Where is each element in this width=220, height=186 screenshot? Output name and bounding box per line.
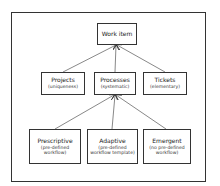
node-label: Processes: [100, 77, 130, 84]
edge-processes-workitem: [115, 45, 116, 72]
node-label: Prescriptive: [37, 138, 72, 145]
node-tickets: Tickets (elementary): [143, 72, 187, 95]
node-prescriptive: Prescriptive (pre-defined workflow): [29, 129, 81, 164]
node-sublabel: (elementary): [150, 84, 180, 89]
node-label: Work item: [102, 31, 133, 38]
edge-adaptive-processes: [112, 95, 115, 129]
node-label: Adaptive: [99, 138, 126, 145]
edge-emergent-processes: [116, 95, 166, 129]
node-sublabel: workflow): [156, 150, 178, 155]
edge-prescriptive-processes: [55, 95, 114, 129]
node-projects: Projects (uniqueness): [41, 72, 85, 95]
node-adaptive: Adaptive (pre-defined workflow template): [87, 129, 138, 164]
node-emergent: Emergent (no pre-defined workflow): [143, 129, 191, 164]
edge-projects-workitem: [63, 45, 116, 72]
node-sublabel: workflow): [44, 150, 66, 155]
node-processes: Processes (systematic): [94, 72, 136, 95]
node-label: Emergent: [152, 138, 181, 145]
node-label: Tickets: [155, 77, 176, 84]
node-work-item: Work item: [97, 23, 137, 45]
node-sublabel: (systematic): [101, 84, 130, 89]
node-label: Projects: [51, 77, 75, 84]
node-sublabel: workflow template): [90, 150, 135, 155]
node-sublabel: (uniqueness): [48, 84, 78, 89]
edge-tickets-workitem: [117, 45, 165, 72]
